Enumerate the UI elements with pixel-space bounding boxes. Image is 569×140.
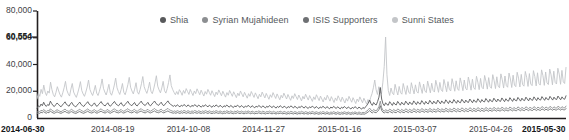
x-axis-label: 2014-08-19 [91, 124, 134, 134]
series-line-shia [37, 88, 566, 110]
x-axis-label: 2015-04-26 [469, 124, 512, 134]
x-axis-label: 2015-01-16 [318, 124, 361, 134]
y-axis-label: 40,000 [0, 60, 32, 69]
series-line-sunni-states [37, 37, 566, 104]
plot-area [0, 0, 569, 140]
series-line-syrian-mujahideen [37, 101, 566, 113]
x-axis-label: 2014-06-30 [1, 124, 44, 134]
series-lines [0, 0, 569, 140]
y-axis-label: 80,000 [0, 6, 32, 15]
x-axis-label: 2014-11-27 [242, 124, 285, 134]
x-axis-label: 2015-03-07 [393, 124, 436, 134]
time-series-chart: ShiaSyrian MujahideenISIS SupportersSunn… [0, 0, 569, 140]
y-axis-label: 0 [0, 113, 32, 122]
x-axis-label: 2015-05-30 [522, 124, 565, 134]
peak-value-label: 60,554 [0, 32, 32, 41]
x-axis-label: 2014-10-08 [167, 124, 210, 134]
y-axis-label: 20,000 [0, 86, 32, 95]
